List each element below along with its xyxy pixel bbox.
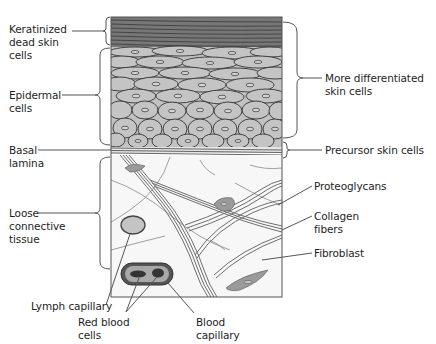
blood-capillary — [121, 263, 173, 285]
label-loose-connective-tissue: Loose connective tissue — [9, 207, 65, 246]
label-more-differentiated-skin-cells: More differentiated skin cells — [325, 72, 424, 98]
keratinized-layer — [111, 17, 282, 47]
lymph-capillary — [121, 216, 145, 234]
skin-diagram: Keratinized dead skin cells Epidermal ce… — [0, 0, 436, 344]
label-epidermal-cells: Epidermal cells — [9, 89, 61, 115]
label-blood-capillary: Blood capillary — [196, 316, 240, 342]
basal-lamina — [111, 147, 282, 155]
label-precursor-skin-cells: Precursor skin cells — [325, 144, 424, 157]
label-fibroblast: Fibroblast — [314, 247, 364, 260]
red-blood-cell — [130, 271, 146, 278]
label-basal-lamina: Basal lamina — [9, 144, 44, 170]
epidermal-layer — [104, 46, 293, 148]
label-collagen-fibers: Collagen fibers — [314, 210, 359, 236]
label-lymph-capillary: Lymph capillary — [31, 300, 112, 313]
label-proteoglycans: Proteoglycans — [314, 180, 387, 193]
label-red-blood-cells: Red blood cells — [78, 316, 129, 342]
label-keratinized-dead-skin-cells: Keratinized dead skin cells — [9, 23, 67, 62]
connective-tissue — [111, 155, 282, 297]
red-blood-cell — [152, 269, 164, 278]
